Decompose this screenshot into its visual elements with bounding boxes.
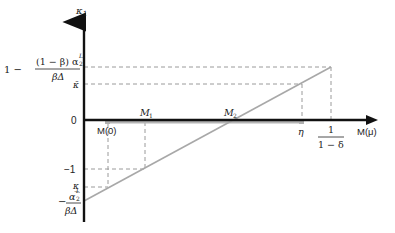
x-tick-m2-sub: 2 bbox=[233, 112, 237, 119]
kappa-function-line bbox=[84, 67, 331, 201]
y-axis-label-sub: 1 bbox=[83, 10, 87, 18]
y-tick-bottom-num-sub: 2 bbox=[76, 195, 80, 202]
x-tick-m1-sub: 1 bbox=[149, 112, 153, 119]
y-tick-bottom-numerator: α bbox=[69, 191, 76, 202]
x-tick-end-denominator: 1 − δ bbox=[318, 139, 344, 150]
y-tick-top-numerator: (1 − β) α bbox=[36, 56, 79, 67]
x-tick-eta: η bbox=[298, 126, 304, 137]
y-tick-minus-one: −1 bbox=[64, 164, 76, 175]
x-tick-m0: M(0) bbox=[97, 125, 117, 136]
y-tick-top-num-sup: L bbox=[78, 52, 83, 59]
x-tick-end-numerator: 1 bbox=[328, 124, 334, 135]
y-axis-label: κ bbox=[75, 5, 83, 16]
x-axis-label: M(μ) bbox=[357, 126, 377, 137]
y-tick-kappa-bar: κ̄ bbox=[72, 80, 79, 90]
guide-lines bbox=[84, 67, 331, 187]
y-tick-top-prefix: 1 − bbox=[4, 64, 22, 75]
y-tick-bottom-num-sup: L bbox=[75, 187, 80, 194]
x-axis-arrowhead bbox=[366, 115, 378, 125]
y-tick-top-num-sub: 2 bbox=[79, 60, 83, 67]
y-tick-top-denominator: βΔ bbox=[51, 71, 64, 82]
y-tick-zero: 0 bbox=[71, 115, 77, 126]
diagram-canvas: κ 1 1 − (1 − β) α L 2 βΔ κ̄ 0 −1 κ̲ − α … bbox=[0, 0, 395, 233]
y-tick-bottom-denominator: βΔ bbox=[64, 205, 77, 216]
